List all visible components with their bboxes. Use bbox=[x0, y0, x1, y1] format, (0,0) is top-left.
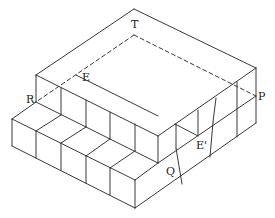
isometric-block-diagram: T E R P E' Q bbox=[0, 0, 275, 218]
upper-front-face bbox=[36, 88, 158, 163]
label-Q: Q bbox=[166, 165, 175, 178]
upper-top-face bbox=[36, 9, 256, 136]
label-E-prime: E' bbox=[196, 139, 207, 152]
diagram-canvas: T E R P E' Q bbox=[0, 0, 275, 218]
label-E: E bbox=[82, 71, 90, 84]
label-R: R bbox=[26, 93, 35, 106]
right-face bbox=[175, 82, 237, 184]
label-T: T bbox=[131, 18, 139, 31]
upper-block-edges bbox=[36, 68, 256, 163]
lower-tier bbox=[12, 96, 256, 208]
label-P: P bbox=[258, 90, 266, 103]
